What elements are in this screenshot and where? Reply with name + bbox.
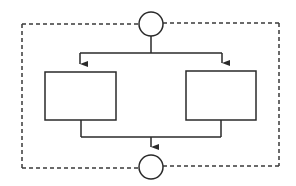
join-connector [81,120,221,147]
start-node-circle [139,12,163,36]
fork-connector [80,36,222,64]
right-process-box [186,71,256,120]
diagram-canvas [0,0,296,186]
flowchart [0,0,296,186]
left-process-box [45,72,116,120]
end-node-circle [139,155,163,179]
